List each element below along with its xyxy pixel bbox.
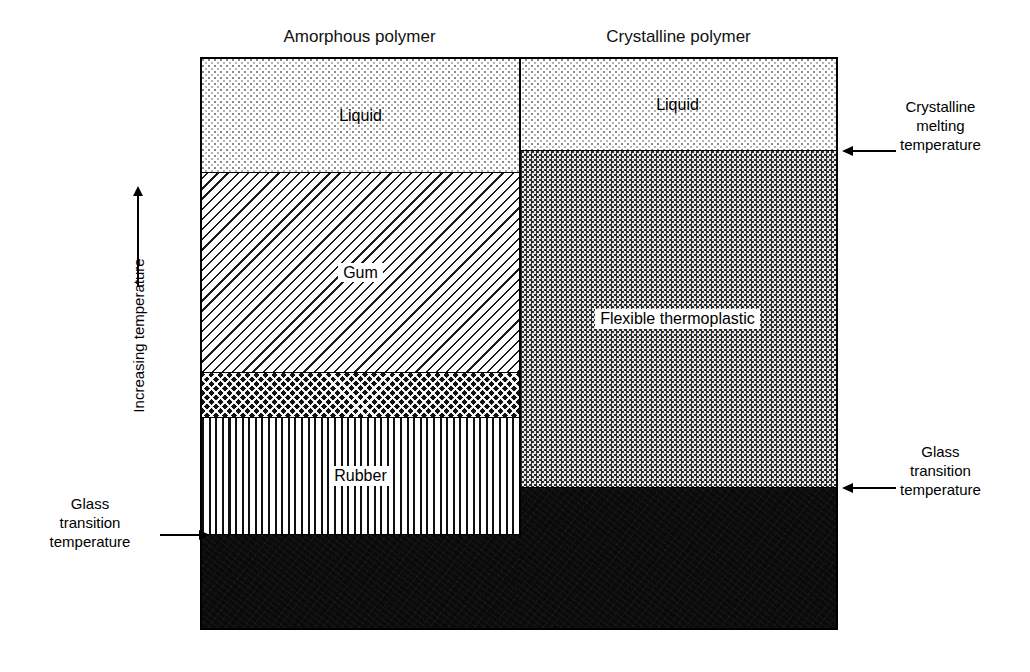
column-amorphous: Liquid Gum Rubber	[202, 59, 519, 628]
band-amorphous-rubber: Rubber	[202, 417, 519, 534]
column-heading-amorphous: Amorphous polymer	[200, 27, 519, 47]
callout-line: temperature	[900, 136, 981, 155]
callout-glass-transition-temperature-amorphous: Glass transition temperature	[24, 495, 156, 551]
band-amorphous-transition	[202, 372, 519, 417]
column-heading-crystalline: Crystalline polymer	[519, 27, 838, 47]
column-divider	[519, 59, 521, 537]
column-crystalline: Liquid Flexible thermoplastic	[519, 59, 836, 628]
y-axis-temperature: Increasing temperature	[121, 195, 155, 495]
band-label-liquid: Liquid	[339, 107, 382, 125]
callout-line: Crystalline	[900, 98, 981, 117]
band-crystalline-glass	[519, 487, 836, 628]
callout-line: Glass	[900, 443, 981, 462]
callout-line: Glass	[24, 495, 156, 514]
band-label-flexible-thermoplastic: Flexible thermoplastic	[595, 309, 760, 329]
chart-frame: Liquid Gum Rubber Liquid Flexible thermo…	[200, 57, 838, 630]
arrow-left-icon-melting	[852, 150, 896, 152]
callout-line: melting	[900, 117, 981, 136]
band-label-rubber: Rubber	[329, 466, 391, 486]
band-crystalline-flexible-thermoplastic: Flexible thermoplastic	[519, 150, 836, 487]
callout-glass-transition-temperature-crystalline: Glass transition temperature	[900, 443, 981, 499]
callout-line: transition	[24, 514, 156, 533]
band-amorphous-gum: Gum	[202, 172, 519, 372]
callout-line: transition	[900, 462, 981, 481]
band-label-gum: Gum	[338, 263, 383, 283]
band-amorphous-liquid: Liquid	[202, 59, 519, 172]
callout-line: temperature	[24, 533, 156, 552]
callout-crystalline-melting-temperature: Crystalline melting temperature	[900, 98, 981, 154]
band-amorphous-glass	[202, 534, 519, 628]
band-crystalline-liquid: Liquid	[519, 59, 836, 150]
y-axis-label: Increasing temperature	[130, 207, 147, 465]
callout-line: temperature	[900, 481, 981, 500]
band-label-liquid: Liquid	[656, 96, 699, 114]
arrow-right-icon-glass-amorphous	[160, 534, 200, 536]
polymer-state-diagram: Amorphous polymer Crystalline polymer In…	[0, 0, 1030, 672]
arrow-left-icon-glass-crystalline	[852, 487, 896, 489]
